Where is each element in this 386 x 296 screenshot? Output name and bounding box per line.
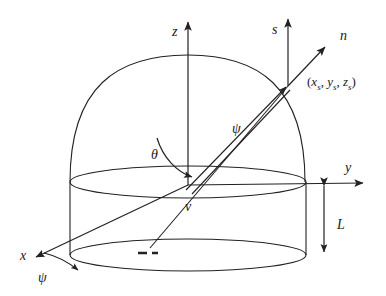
vector-label-n: n [340, 29, 347, 43]
bottom-ellipse [70, 239, 306, 271]
angle-label-theta: θ [151, 148, 158, 162]
axis-label-x: x [20, 249, 26, 263]
vector-label-s: s [272, 23, 277, 37]
vector-v [150, 86, 288, 248]
coord-close-paren: ) [352, 74, 356, 89]
vector-label-v: v [185, 200, 191, 214]
angle-arc-theta [157, 138, 192, 177]
figure-canvas: z y x s n v θ ψ ψ L (xs, ys, zs) [0, 0, 386, 296]
axis-x [36, 185, 188, 257]
angle-arc-psi [44, 253, 78, 270]
axis-label-z: z [172, 25, 177, 39]
axis-label-y: y [345, 161, 351, 175]
diagram-svg [0, 0, 386, 296]
ray-to-surface-point [186, 87, 290, 194]
dimension-label-L: L [337, 218, 345, 232]
axis-y [188, 183, 363, 185]
angle-label-psi-upper: ψ [232, 122, 241, 136]
surface-point-label: (xs, ys, zs) [307, 75, 356, 92]
angle-label-psi-lower: ψ [38, 271, 47, 285]
